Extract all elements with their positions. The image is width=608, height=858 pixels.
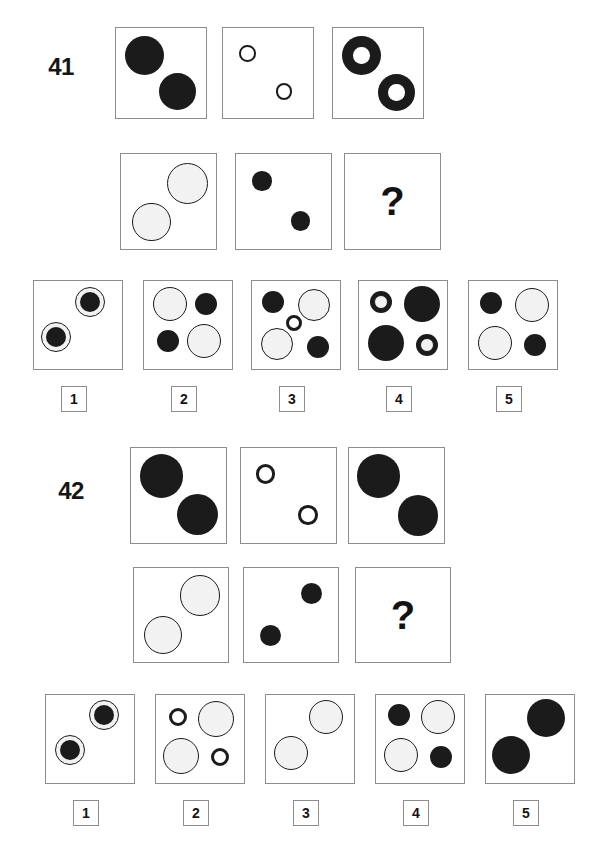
filled-dark-circle <box>177 494 218 535</box>
puzzle-42-matrix-cell-b1 <box>133 567 229 663</box>
puzzle-42-matrix-cell-b3-answer: ? <box>355 567 451 663</box>
puzzle-41-option-label-1[interactable]: 1 <box>61 386 87 412</box>
puzzle-number-41: 41 <box>30 36 92 98</box>
puzzle-number-42: 42 <box>38 460 104 522</box>
puzzle-42-matrix-cell-a2 <box>240 447 337 544</box>
outlined-light-circle <box>384 738 418 772</box>
filled-dark-circle <box>388 704 410 726</box>
puzzle-42-option-2[interactable] <box>155 694 245 784</box>
outlined-light-circle <box>187 324 221 358</box>
filled-dark-circle <box>430 746 452 768</box>
puzzle-42-matrix-cell-a1 <box>130 447 227 544</box>
puzzle-42-option-label-1[interactable]: 1 <box>73 800 99 826</box>
filled-dark-circle <box>159 73 196 110</box>
filled-dark-circle <box>368 325 404 361</box>
filled-dark-circle <box>157 330 179 352</box>
light-core <box>374 295 388 309</box>
dark-core <box>80 292 100 312</box>
filled-dark-circle <box>125 36 164 75</box>
puzzle-42-option-3[interactable] <box>265 694 355 784</box>
filled-dark-circle <box>260 625 281 646</box>
filled-dark-circle <box>140 454 183 497</box>
thin-ring <box>276 83 292 99</box>
puzzle-41-matrix-cell-b3-answer: ? <box>344 153 441 250</box>
puzzle-42-option-label-3[interactable]: 3 <box>293 800 319 826</box>
outlined-light-circle <box>515 288 549 322</box>
outlined-light-circle <box>153 287 187 321</box>
filled-dark-circle <box>398 495 439 536</box>
outlined-light-circle <box>261 328 293 360</box>
outlined-light-circle <box>180 575 221 616</box>
outlined-light-circle <box>478 326 512 360</box>
puzzle-42-option-label-5[interactable]: 5 <box>513 800 539 826</box>
puzzle-42-option-1[interactable] <box>45 694 135 784</box>
thin-ring <box>256 464 275 483</box>
puzzle-41-option-label-2[interactable]: 2 <box>171 386 197 412</box>
thin-ring <box>298 505 317 524</box>
puzzle-41-option-2[interactable] <box>143 280 233 370</box>
filled-dark-circle <box>404 286 440 322</box>
filled-dark-circle <box>195 293 217 315</box>
puzzle-41-matrix-cell-a1 <box>115 27 207 119</box>
filled-dark-circle <box>492 736 530 774</box>
thin-ring <box>239 45 255 61</box>
puzzle-41-option-5[interactable] <box>468 280 558 370</box>
puzzle-41-matrix-cell-b1 <box>120 153 217 250</box>
puzzle-41-option-label-3[interactable]: 3 <box>279 386 305 412</box>
filled-dark-circle <box>524 334 546 356</box>
outlined-light-circle <box>309 700 343 734</box>
annulus-hole <box>353 47 369 63</box>
outlined-light-circle <box>274 736 308 770</box>
filled-dark-circle <box>262 291 284 313</box>
puzzle-41-option-label-5[interactable]: 5 <box>496 386 522 412</box>
thin-ring <box>286 315 302 331</box>
puzzle-41-matrix-cell-b2 <box>235 153 332 250</box>
outlined-light-circle <box>198 701 234 737</box>
puzzle-42-matrix-cell-b2 <box>243 567 339 663</box>
puzzle-41-option-3[interactable] <box>251 280 341 370</box>
puzzle-42-option-4[interactable] <box>375 694 465 784</box>
puzzle-41-option-label-4[interactable]: 4 <box>386 386 412 412</box>
dark-core <box>94 705 114 725</box>
annulus-hole <box>388 84 404 100</box>
puzzle-42-option-label-2[interactable]: 2 <box>183 800 209 826</box>
puzzle-41-option-4[interactable] <box>358 280 448 370</box>
dark-core <box>46 327 66 347</box>
question-mark: ? <box>345 154 440 249</box>
filled-dark-circle <box>480 292 502 314</box>
thin-ring <box>169 708 187 726</box>
dark-core <box>60 740 80 760</box>
outlined-light-circle <box>298 289 330 321</box>
light-core <box>420 338 434 352</box>
outlined-light-circle <box>421 700 455 734</box>
question-mark: ? <box>356 568 450 662</box>
outlined-light-circle <box>167 163 208 204</box>
puzzle-42-option-5[interactable] <box>485 694 575 784</box>
filled-dark-circle <box>357 454 400 497</box>
filled-dark-circle <box>307 336 329 358</box>
puzzle-41-option-1[interactable] <box>33 280 123 370</box>
puzzle-42-matrix-cell-a3 <box>348 447 445 544</box>
puzzle-41-matrix-cell-a3 <box>332 27 424 119</box>
outlined-light-circle <box>163 738 199 774</box>
puzzle-41-matrix-cell-a2 <box>222 27 314 119</box>
filled-dark-circle <box>291 211 310 230</box>
outlined-light-circle <box>132 203 171 242</box>
filled-dark-circle <box>252 171 271 190</box>
filled-dark-circle <box>301 583 322 604</box>
thin-ring <box>211 748 229 766</box>
puzzle-42-option-label-4[interactable]: 4 <box>403 800 429 826</box>
filled-dark-circle <box>527 699 565 737</box>
test-page: 41?1234542?12345 <box>0 0 608 858</box>
outlined-light-circle <box>144 616 182 654</box>
